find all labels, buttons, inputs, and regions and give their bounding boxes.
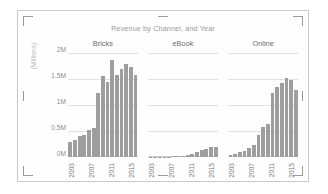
bar[interactable] bbox=[73, 140, 77, 157]
bar[interactable] bbox=[158, 157, 162, 158]
bar[interactable] bbox=[252, 145, 256, 157]
y-axis-tick: 2M bbox=[57, 46, 66, 53]
resize-handle-right-middle[interactable] bbox=[302, 91, 303, 101]
bar[interactable] bbox=[167, 157, 171, 158]
bar[interactable] bbox=[204, 149, 208, 157]
x-axis-tick: 2015 bbox=[208, 163, 215, 178]
x-axis-tick: 2003 bbox=[68, 163, 75, 178]
x-axis-tick: 2003 bbox=[228, 163, 235, 178]
bar[interactable] bbox=[289, 80, 293, 157]
bar[interactable] bbox=[92, 128, 96, 157]
x-axis-tick: 2003 bbox=[148, 163, 155, 178]
y-axis-tick: 1M bbox=[57, 98, 66, 105]
y-axis-tick-labels: 0M0.5M1M1.5M2M bbox=[40, 49, 66, 153]
facet-panel: Bricks2003200720112015 bbox=[68, 39, 138, 171]
bar[interactable] bbox=[96, 93, 100, 157]
bar[interactable] bbox=[181, 156, 185, 157]
bar[interactable] bbox=[68, 142, 72, 157]
facet-panels: Bricks2003200720112015eBook2003200720112… bbox=[68, 39, 298, 171]
facet-panel: Online2003200720112015 bbox=[228, 39, 298, 171]
bar[interactable] bbox=[129, 67, 133, 157]
bar[interactable] bbox=[120, 69, 124, 157]
bar-group bbox=[68, 53, 138, 157]
plot-area: (Millions) 0M0.5M1M1.5M2M Bricks20032007… bbox=[32, 35, 300, 171]
x-axis-tick: 2015 bbox=[128, 163, 135, 178]
bar[interactable] bbox=[190, 154, 194, 157]
bar[interactable] bbox=[294, 90, 298, 157]
panel-plot-box bbox=[148, 53, 218, 157]
bar[interactable] bbox=[149, 157, 153, 158]
chart-object[interactable]: Revenue by Channel, and Year (Millions) … bbox=[17, 10, 309, 182]
x-axis-tick: 2011 bbox=[188, 163, 195, 177]
bar-group bbox=[228, 53, 298, 157]
x-axis-tick-labels: 2003200720112015 bbox=[148, 161, 218, 194]
bar[interactable] bbox=[285, 78, 289, 157]
bar[interactable] bbox=[214, 147, 218, 157]
bar[interactable] bbox=[110, 60, 114, 157]
bar[interactable] bbox=[243, 151, 247, 157]
bar[interactable] bbox=[257, 135, 261, 157]
y-axis-title: (Millions) bbox=[30, 29, 37, 83]
x-axis-tick: 2015 bbox=[288, 163, 295, 178]
bar[interactable] bbox=[134, 75, 138, 157]
facet-panel: eBook2003200720112015 bbox=[148, 39, 218, 171]
x-axis-tick: 2011 bbox=[268, 163, 275, 177]
bar[interactable] bbox=[261, 127, 265, 157]
y-axis-tick: 0.5M bbox=[51, 124, 66, 131]
bar[interactable] bbox=[153, 157, 157, 158]
bar-group bbox=[148, 53, 218, 157]
panel-title[interactable]: Bricks bbox=[68, 39, 138, 48]
bar[interactable] bbox=[233, 154, 237, 157]
chart-title[interactable]: Revenue by Channel, and Year bbox=[18, 24, 308, 33]
resize-handle-left-middle[interactable] bbox=[23, 91, 24, 101]
x-axis-tick: 2007 bbox=[168, 163, 175, 178]
bar[interactable] bbox=[163, 157, 167, 158]
bar[interactable] bbox=[229, 155, 233, 157]
bar[interactable] bbox=[172, 156, 176, 157]
y-axis-tick: 0M bbox=[57, 150, 66, 157]
x-axis-tick-labels: 2003200720112015 bbox=[228, 161, 298, 194]
x-axis-tick: 2011 bbox=[108, 163, 115, 177]
panel-title[interactable]: eBook bbox=[148, 39, 218, 48]
panel-plot-box bbox=[68, 53, 138, 157]
x-axis-tick-labels: 2003200720112015 bbox=[68, 161, 138, 194]
bar[interactable] bbox=[176, 156, 180, 157]
bar[interactable] bbox=[115, 75, 119, 157]
bar[interactable] bbox=[275, 87, 279, 157]
x-axis-tick: 2007 bbox=[248, 163, 255, 178]
resize-handle-top-middle[interactable] bbox=[158, 16, 168, 17]
bar[interactable] bbox=[195, 152, 199, 157]
bar[interactable] bbox=[186, 155, 190, 157]
bar[interactable] bbox=[238, 152, 242, 157]
bar[interactable] bbox=[280, 83, 284, 157]
bar[interactable] bbox=[209, 147, 213, 157]
x-axis-tick: 2007 bbox=[88, 163, 95, 178]
bar[interactable] bbox=[200, 150, 204, 157]
bar[interactable] bbox=[247, 148, 251, 157]
panel-title[interactable]: Online bbox=[228, 39, 298, 48]
bar[interactable] bbox=[271, 93, 275, 157]
bar[interactable] bbox=[266, 124, 270, 157]
bar[interactable] bbox=[101, 76, 105, 157]
bar[interactable] bbox=[78, 136, 82, 157]
y-axis-tick: 1.5M bbox=[51, 72, 66, 79]
bar[interactable] bbox=[87, 130, 91, 157]
panel-plot-box bbox=[228, 53, 298, 157]
bar[interactable] bbox=[124, 64, 128, 157]
bar[interactable] bbox=[106, 82, 110, 157]
bar[interactable] bbox=[82, 135, 86, 157]
